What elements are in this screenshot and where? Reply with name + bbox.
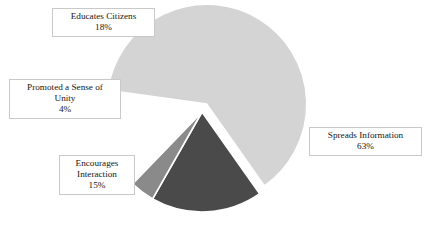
pie-label-encourages-interaction-title-line1: Encourages bbox=[64, 158, 130, 169]
pie-label-educates-citizens-value: 18% bbox=[57, 22, 150, 33]
pie-label-educates-citizens-title: Educates Citizens bbox=[57, 11, 150, 22]
pie-label-spreads-information-value: 63% bbox=[314, 141, 417, 152]
pie-label-encourages-interaction-title-line2: Interaction bbox=[64, 169, 130, 180]
pie-label-spreads-information: Spreads Information 63% bbox=[309, 127, 422, 156]
pie-label-encourages-interaction-value: 15% bbox=[64, 180, 130, 191]
pie-label-promoted-sense-unity-title-line1: Promoted a Sense of bbox=[14, 82, 116, 93]
pie-label-promoted-sense-unity: Promoted a Sense of Unity 4% bbox=[9, 79, 121, 119]
pie-label-spreads-information-title: Spreads Information bbox=[314, 130, 417, 141]
pie-chart-figure: Educates Citizens 18% Promoted a Sense o… bbox=[0, 0, 425, 226]
pie-label-educates-citizens: Educates Citizens 18% bbox=[52, 8, 155, 37]
pie-label-encourages-interaction: Encourages Interaction 15% bbox=[59, 155, 135, 195]
pie-label-promoted-sense-unity-value: 4% bbox=[14, 104, 116, 115]
pie-label-promoted-sense-unity-title-line2: Unity bbox=[14, 93, 116, 104]
